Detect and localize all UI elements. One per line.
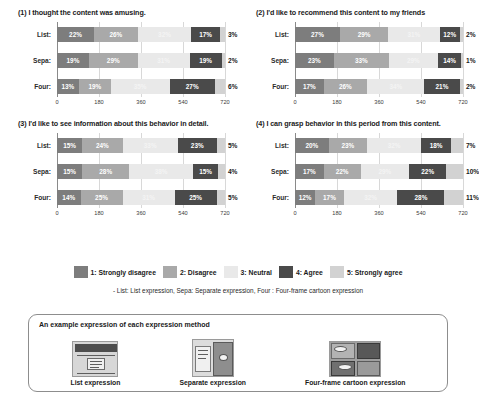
x-axis-tick: 180	[332, 99, 341, 105]
chart-2-title: (2) I'd like to recommend this content t…	[238, 8, 476, 17]
legend-swatch-5	[330, 266, 344, 278]
legend-swatch-2	[163, 266, 177, 278]
bar-segment: 27%	[170, 79, 215, 94]
bar-segment: 15%	[57, 164, 82, 179]
x-axis-tick: 720	[458, 99, 467, 105]
bar-row-label: Sepa:	[256, 57, 292, 64]
legend-item-3: 3: Neutral	[224, 266, 272, 278]
x-axis-tick: 720	[220, 99, 229, 105]
bar-segment: 22%	[57, 27, 94, 42]
x-axis-tick: 180	[94, 99, 103, 105]
bar-track: 15%28%38%15%	[57, 164, 225, 179]
legend-swatch-1	[74, 266, 88, 278]
bar-outside-label: 6%	[225, 83, 238, 90]
bar-segment	[460, 79, 463, 94]
chart-1-xaxis: 0180360540720	[18, 99, 230, 111]
bar-row-label: Four:	[256, 194, 292, 201]
example-items: List expression Separate expression	[29, 328, 447, 386]
bar-track: 12%17%32%28%	[295, 190, 463, 205]
example-caption-separate: Separate expression	[179, 379, 246, 386]
legend: 1: Strongly disagree2: Disagree3: Neutra…	[0, 266, 476, 278]
x-axis-tick: 360	[374, 99, 383, 105]
bar-row-label: List:	[18, 31, 54, 38]
bar-segment: 23%	[295, 53, 334, 68]
bar-segment: 15%	[193, 164, 218, 179]
example-caption-list: List expression	[71, 379, 121, 386]
chart-row-top: (1) I thought the content was amusing. L…	[0, 8, 476, 111]
chart-4-rows: List:20%23%32%18%7%Sepa:17%22%29%22%10%F…	[256, 133, 468, 209]
x-axis-tick: 180	[94, 210, 103, 216]
bar-segment: 26%	[324, 79, 368, 94]
bar-row: Sepa:23%33%29%14%1%	[256, 48, 468, 72]
bar-row-label: Four:	[18, 194, 54, 201]
example-item-separate: Separate expression	[179, 339, 246, 386]
chart-4-xaxis: 0180360540720	[256, 210, 468, 222]
legend-item-4: 4: Agree	[279, 266, 323, 278]
bar-segment: 29%	[340, 27, 388, 42]
bar-segment: 29%	[361, 164, 410, 179]
bar-row-label: List:	[18, 142, 54, 149]
bar-track: 15%24%33%23%	[57, 138, 225, 153]
bar-segment: 15%	[57, 138, 82, 153]
example-panel: An example expression of each expression…	[28, 314, 448, 392]
chart-2-rows: List:27%29%31%12%2%Sepa:23%33%29%14%1%Fo…	[256, 22, 468, 98]
bar-outside-label: 4%	[225, 168, 238, 175]
x-axis-tick: 360	[136, 99, 145, 105]
bar-outside-label: 2%	[225, 57, 238, 64]
bar-segment: 13%	[57, 79, 79, 94]
bar-segment: 17%	[191, 27, 220, 42]
bar-track: 13%19%35%27%	[57, 79, 225, 94]
legend-item-2: 2: Disagree	[163, 266, 217, 278]
bar-segment: 12%	[295, 190, 315, 205]
x-axis-tick: 360	[136, 210, 145, 216]
bar-segment: 25%	[175, 190, 217, 205]
chart-3-plot: List:15%24%33%23%5%Sepa:15%28%38%15%4%Fo…	[18, 133, 230, 222]
chart-1-plot: List:22%26%32%17%3%Sepa:19%29%31%19%2%Fo…	[18, 22, 230, 111]
bar-track: 19%29%31%19%	[57, 53, 225, 68]
bar-segment	[217, 190, 225, 205]
x-axis-tick: 0	[55, 210, 58, 216]
bar-row-label: Four:	[18, 83, 54, 90]
example-panel-heading: An example expression of each expression…	[29, 315, 447, 328]
chart-1-title: (1) I thought the content was amusing.	[0, 8, 238, 17]
x-axis-tick: 540	[416, 99, 425, 105]
legend-item-1: 1: Strongly disagree	[74, 266, 156, 278]
bar-segment: 31%	[123, 190, 175, 205]
bar-row-label: Sepa:	[18, 57, 54, 64]
bar-outside-label: 5%	[225, 142, 238, 149]
bar-row-label: List:	[256, 142, 292, 149]
bar-segment: 22%	[409, 164, 446, 179]
bar-segment: 33%	[123, 138, 178, 153]
bar-segment	[444, 190, 462, 205]
x-axis-tick: 0	[293, 99, 296, 105]
bar-row: List:20%23%32%18%7%	[256, 133, 468, 157]
bar-segment: 24%	[82, 138, 122, 153]
bar-outside-label: 5%	[225, 194, 238, 201]
bar-segment: 26%	[94, 27, 138, 42]
legend-label-1: 1: Strongly disagree	[91, 269, 156, 276]
bar-segment: 19%	[79, 79, 111, 94]
bar-segment: 32%	[344, 190, 398, 205]
separate-expression-thumbnail	[192, 339, 234, 377]
x-axis-tick: 540	[178, 210, 187, 216]
bar-track: 22%26%32%17%	[57, 27, 225, 42]
chart-2: (2) I'd like to recommend this content t…	[238, 8, 476, 111]
example-item-four-frame: Four-frame cartoon expression	[305, 341, 405, 386]
bar-segment: 28%	[397, 190, 444, 205]
bar-outside-label: 7%	[463, 142, 476, 149]
bar-segment: 25%	[81, 190, 123, 205]
chart-3-rows: List:15%24%33%23%5%Sepa:15%28%38%15%4%Fo…	[18, 133, 230, 209]
x-axis-tick: 0	[293, 210, 296, 216]
bar-segment: 12%	[440, 27, 460, 42]
legend-note: - List: List expression, Sepa: Separate …	[0, 287, 476, 294]
list-expression-thumbnail	[72, 341, 118, 377]
x-axis-tick: 720	[458, 210, 467, 216]
bar-segment: 18%	[421, 138, 451, 153]
bar-segment	[218, 164, 225, 179]
legend-label-3: 3: Neutral	[241, 269, 272, 276]
chart-4-title: (4) I can grasp behavior in this period …	[238, 119, 476, 128]
x-axis-tick: 0	[55, 99, 58, 105]
bar-track: 23%33%29%14%	[295, 53, 463, 68]
bar-row-label: Four:	[256, 83, 292, 90]
bar-segment	[451, 138, 463, 153]
